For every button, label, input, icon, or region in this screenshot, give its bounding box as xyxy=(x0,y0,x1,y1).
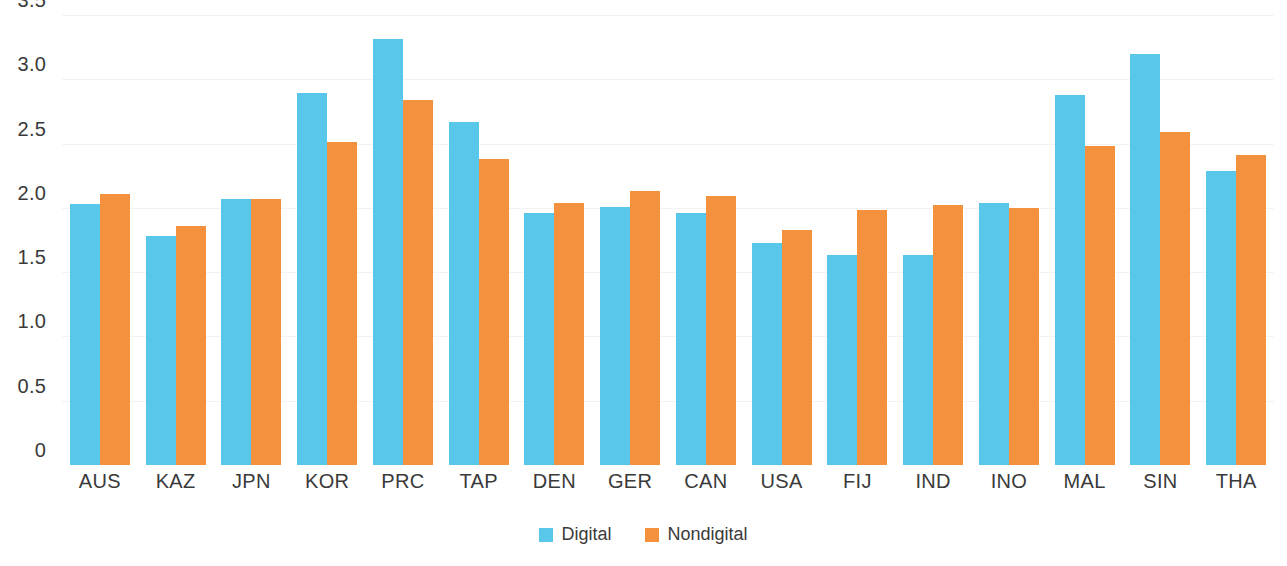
x-axis-tick-label-kaz: KAZ xyxy=(138,470,214,493)
y-axis-tick-label: 1.5 xyxy=(18,246,46,269)
bar-group-ino xyxy=(971,15,1047,465)
x-axis-tick-label-can: CAN xyxy=(668,470,744,493)
y-axis-tick-label: 0 xyxy=(35,439,46,462)
x-axis-tick-label-prc: PRC xyxy=(365,470,441,493)
bar-tap-nondigital[interactable] xyxy=(479,159,509,465)
x-axis-tick-label-sin: SIN xyxy=(1123,470,1199,493)
bar-tha-nondigital[interactable] xyxy=(1236,155,1266,465)
x-axis-tick-label-usa: USA xyxy=(744,470,820,493)
bar-ind-nondigital[interactable] xyxy=(933,205,963,465)
bar-group-tha xyxy=(1198,15,1274,465)
bar-tap-digital[interactable] xyxy=(449,122,479,465)
y-axis-tick-label: 0.5 xyxy=(18,374,46,397)
x-axis-tick-label-fij: FIJ xyxy=(820,470,896,493)
bar-den-nondigital[interactable] xyxy=(554,203,584,465)
bar-kor-digital[interactable] xyxy=(297,93,327,465)
gridline-0 xyxy=(62,465,1274,466)
bar-can-nondigital[interactable] xyxy=(706,196,736,465)
bar-group-kor xyxy=(289,15,365,465)
bar-fij-digital[interactable] xyxy=(827,255,857,465)
x-axis-tick-label-tap: TAP xyxy=(441,470,517,493)
bar-usa-digital[interactable] xyxy=(752,243,782,465)
x-axis-tick-label-jpn: JPN xyxy=(214,470,290,493)
bars-layer xyxy=(62,15,1274,465)
bar-group-mal xyxy=(1047,15,1123,465)
bar-ger-nondigital[interactable] xyxy=(630,191,660,465)
bar-ino-nondigital[interactable] xyxy=(1009,208,1039,465)
bar-can-digital[interactable] xyxy=(676,213,706,465)
bar-tha-digital[interactable] xyxy=(1206,171,1236,465)
bar-group-can xyxy=(668,15,744,465)
y-axis: 00.51.01.52.02.53.03.5 xyxy=(0,0,56,480)
bar-group-ind xyxy=(895,15,971,465)
bar-aus-nondigital[interactable] xyxy=(100,194,130,465)
x-axis: AUSKAZJPNKORPRCTAPDENGERCANUSAFIJINDINOM… xyxy=(62,470,1274,493)
bar-ind-digital[interactable] xyxy=(903,255,933,465)
bar-group-ger xyxy=(592,15,668,465)
chart-legend: DigitalNondigital xyxy=(0,524,1287,545)
bar-usa-nondigital[interactable] xyxy=(782,230,812,465)
bar-den-digital[interactable] xyxy=(524,213,554,465)
bar-mal-digital[interactable] xyxy=(1055,95,1085,465)
x-axis-tick-label-kor: KOR xyxy=(289,470,365,493)
bar-group-tap xyxy=(441,15,517,465)
legend-label: Nondigital xyxy=(667,524,747,545)
legend-swatch-nondigital-icon xyxy=(645,528,659,542)
y-axis-tick-label: 3.5 xyxy=(18,0,46,12)
bar-group-den xyxy=(517,15,593,465)
bar-group-jpn xyxy=(214,15,290,465)
y-axis-tick-label: 3.0 xyxy=(18,53,46,76)
bar-ger-digital[interactable] xyxy=(600,207,630,465)
bar-jpn-digital[interactable] xyxy=(221,199,251,465)
grouped-bar-chart: 00.51.01.52.02.53.03.5 AUSKAZJPNKORPRCTA… xyxy=(0,0,1287,566)
bar-group-aus xyxy=(62,15,138,465)
bar-ino-digital[interactable] xyxy=(979,203,1009,465)
bar-prc-nondigital[interactable] xyxy=(403,100,433,465)
legend-item-digital[interactable]: Digital xyxy=(539,524,611,545)
legend-swatch-digital-icon xyxy=(539,528,553,542)
bar-sin-nondigital[interactable] xyxy=(1160,132,1190,465)
x-axis-tick-label-ger: GER xyxy=(592,470,668,493)
x-axis-tick-label-den: DEN xyxy=(517,470,593,493)
y-axis-tick-label: 2.0 xyxy=(18,181,46,204)
bar-kaz-digital[interactable] xyxy=(146,236,176,465)
bar-group-fij xyxy=(820,15,896,465)
y-axis-tick-label: 2.5 xyxy=(18,117,46,140)
bar-kaz-nondigital[interactable] xyxy=(176,226,206,465)
bar-kor-nondigital[interactable] xyxy=(327,142,357,465)
bar-mal-nondigital[interactable] xyxy=(1085,146,1115,465)
x-axis-tick-label-ind: IND xyxy=(895,470,971,493)
bar-jpn-nondigital[interactable] xyxy=(251,199,281,465)
bar-prc-digital[interactable] xyxy=(373,39,403,465)
x-axis-tick-label-ino: INO xyxy=(971,470,1047,493)
x-axis-tick-label-tha: THA xyxy=(1198,470,1274,493)
bar-group-prc xyxy=(365,15,441,465)
legend-label: Digital xyxy=(561,524,611,545)
x-axis-tick-label-mal: MAL xyxy=(1047,470,1123,493)
y-axis-tick-label: 1.0 xyxy=(18,310,46,333)
bar-group-kaz xyxy=(138,15,214,465)
bar-aus-digital[interactable] xyxy=(70,204,100,465)
legend-item-nondigital[interactable]: Nondigital xyxy=(645,524,747,545)
bar-group-usa xyxy=(744,15,820,465)
x-axis-tick-label-aus: AUS xyxy=(62,470,138,493)
bar-group-sin xyxy=(1123,15,1199,465)
bar-sin-digital[interactable] xyxy=(1130,54,1160,465)
bar-fij-nondigital[interactable] xyxy=(857,210,887,465)
